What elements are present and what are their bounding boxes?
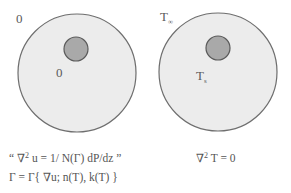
- eq1-suffix: u = 1/ N(Γ) dP/dz ”: [29, 152, 121, 164]
- left-inner-core-circle: [64, 37, 88, 61]
- right-inner-boundary-label: Ts: [196, 69, 207, 85]
- left-inner-boundary-label: 0: [56, 66, 63, 79]
- left-outer-domain-circle: [18, 14, 136, 132]
- t-infinity-main: T: [160, 9, 168, 24]
- right-inner-core-circle: [206, 36, 230, 60]
- right-outer-boundary-label: T∞: [160, 10, 173, 26]
- left-outer-boundary-label: 0: [16, 12, 23, 25]
- eq2-prefix: ∇: [196, 152, 204, 164]
- right-outer-domain-circle: [159, 13, 277, 131]
- gamma-definition: Γ = Γ{ ∇u; n(T), k(T) }: [9, 172, 118, 184]
- t-infinity-subscript: ∞: [168, 18, 173, 26]
- eq1-prefix: “ ∇: [9, 152, 25, 164]
- momentum-equation: “ ∇2 u = 1/ N(Γ) dP/dz ”: [9, 153, 121, 165]
- t-s-main: T: [196, 68, 204, 83]
- eq2-suffix: T = 0: [208, 152, 235, 164]
- heat-equation: ∇2 T = 0: [196, 153, 236, 165]
- t-s-subscript: s: [204, 77, 207, 85]
